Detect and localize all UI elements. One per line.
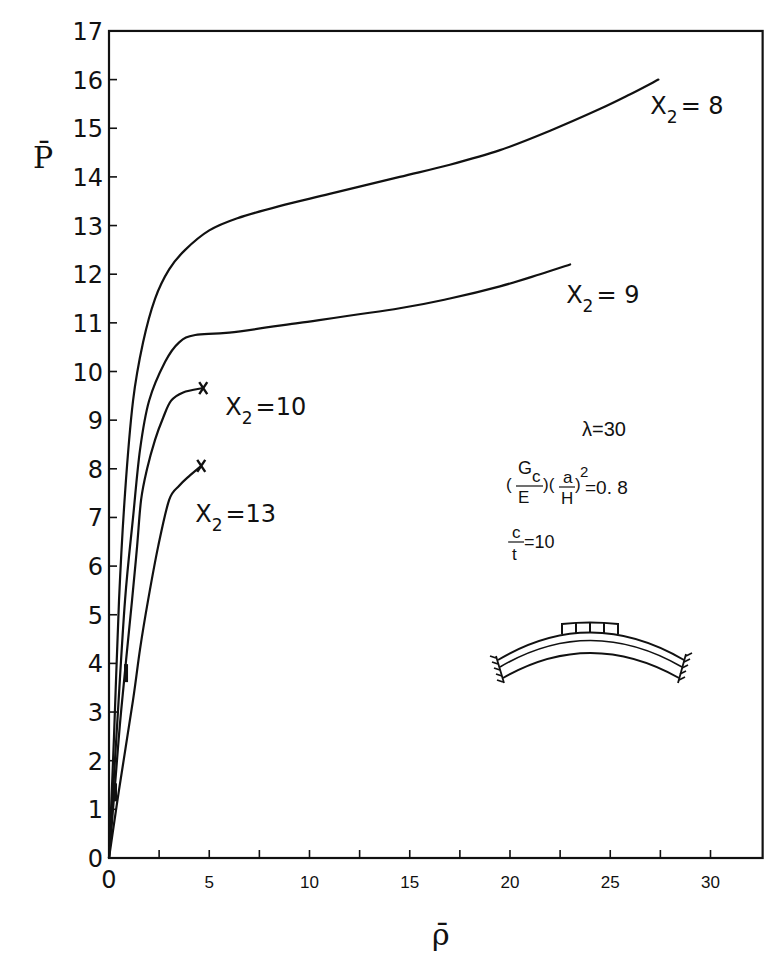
lambda-annotation: λ=30 [582,418,626,440]
svg-text:H: H [561,489,573,508]
y-tick-label: 17 [72,18,103,46]
svg-text:G: G [518,458,532,478]
y-axis-title-text: P̄ [33,140,53,175]
y-tick-label: 5 [88,602,103,630]
y-tick-label: 3 [88,699,103,727]
x-tick-label: 30 [701,873,720,892]
y-tick-label: 4 [88,650,103,678]
x-tick-label: 20 [501,873,520,892]
left-clamped-support [490,656,504,683]
y-tick-label: 13 [72,213,103,241]
x-axis-title: ρ̄ [432,917,450,952]
svg-text:(: ( [506,475,512,494]
svg-text:)(: )( [543,475,555,494]
curve-x2-8 [109,80,658,858]
data-curves [109,80,658,858]
y-tick-label: 2 [88,748,103,776]
arch-inset-diagram [490,622,692,683]
curve-label: X2= 8 [650,92,723,127]
svg-text:c: c [512,523,521,542]
arch-outer-face [498,633,684,661]
y-tick-label: 11 [72,310,103,338]
svg-text:t: t [512,545,517,564]
axis-ticks: 05101520253001234567891011121314151617 [72,18,720,894]
y-tick-label: 0 [88,845,103,873]
curve-label: X2= 9 [566,281,639,316]
svg-text:a: a [563,468,573,487]
load-deflection-chart: 05101520253001234567891011121314151617 X… [0,0,781,962]
curve-label: X2=10 [225,393,306,428]
x-tick-label: 10 [300,873,319,892]
y-tick-label: 15 [72,115,103,143]
y-tick-label: 1 [88,796,103,824]
svg-text:=10: =10 [524,532,555,552]
y-tick-label: 9 [88,407,103,435]
plot-area-border [109,31,763,858]
curve-label: X2=13 [195,500,276,535]
curve-labels: X2= 8X2= 9X2=10X2=13 [195,92,723,536]
parameter-annotations: λ=30 ( G c E )( a H ) 2 =0. 8 c t =10 [506,418,628,564]
curve-x2-9 [109,264,570,858]
core-thickness-ratio-annotation: c t =10 [508,523,555,564]
x-tick-label: 5 [205,873,214,892]
y-tick-label: 10 [72,359,103,387]
y-axis-title: P̄ [33,140,53,175]
x-tick-label: 25 [601,873,620,892]
y-tick-label: 7 [88,504,103,532]
y-tick-label: 12 [72,261,103,289]
arch-inner-face [503,653,679,678]
y-tick-label: 8 [88,456,103,484]
x-axis-title-text: ρ̄ [432,917,450,952]
y-tick-label: 14 [72,164,103,192]
curve-end-x-marker-icon [197,460,205,472]
svg-text:E: E [518,488,529,507]
x-tick-label: 15 [400,873,419,892]
plot-frame [109,31,763,858]
x-tick-label: 0 [101,866,116,894]
y-tick-label: 6 [88,553,103,581]
y-tick-label: 16 [72,67,103,95]
svg-text:c: c [532,467,541,486]
svg-text:=0. 8: =0. 8 [585,477,628,498]
stiffness-ratio-annotation: ( G c E )( a H ) 2 =0. 8 [506,458,628,508]
